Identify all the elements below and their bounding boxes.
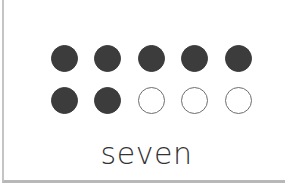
number-card: seven	[2, 0, 285, 183]
empty-circle-icon	[181, 87, 208, 114]
filled-circle-icon	[51, 87, 78, 114]
filled-circle-icon	[138, 45, 165, 72]
filled-circle-icon	[181, 45, 208, 72]
filled-circle-icon	[225, 45, 252, 72]
filled-circle-icon	[51, 45, 78, 72]
filled-circle-icon	[94, 45, 121, 72]
filled-circle-icon	[94, 87, 121, 114]
empty-circle-icon	[225, 87, 252, 114]
dot-row-1	[4, 45, 285, 75]
dot-row-2	[4, 87, 285, 117]
empty-circle-icon	[138, 87, 165, 114]
number-word-label: seven	[4, 136, 285, 171]
